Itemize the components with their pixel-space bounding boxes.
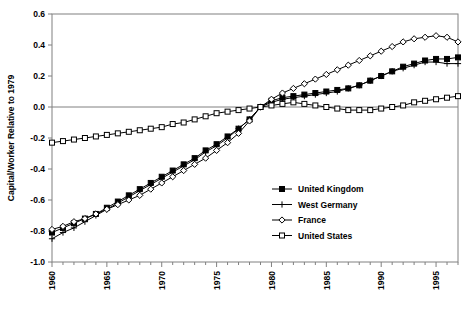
marker-open-square xyxy=(104,132,109,137)
marker-plus xyxy=(455,61,461,67)
marker-open-diamond xyxy=(356,57,362,63)
y-axis-tick-label: -0.8 xyxy=(30,226,45,236)
legend-item-west-germany[interactable]: West Germany xyxy=(272,200,358,210)
legend-item-france[interactable]: France xyxy=(272,215,326,225)
x-axis-tick-label: 1975 xyxy=(212,271,222,290)
x-axis-tick-label-group: 1960 xyxy=(47,271,57,290)
x-axis-tick-label-group: 1975 xyxy=(212,271,222,290)
legend-item-united-kingdom[interactable]: United Kingdom xyxy=(272,184,364,194)
marker-open-square xyxy=(324,105,329,110)
marker-open-square xyxy=(214,111,219,116)
legend: United KingdomWest GermanyFranceUnited S… xyxy=(272,184,364,241)
marker-open-square xyxy=(82,136,87,141)
marker-open-diamond xyxy=(433,33,439,39)
y-axis-title: Capital/Worker Relative to 1979 xyxy=(6,75,16,202)
marker-open-square xyxy=(258,105,263,110)
y-axis-tick-label: 0.4 xyxy=(33,40,45,50)
x-axis-tick-label: 1960 xyxy=(47,271,57,290)
marker-open-diamond xyxy=(345,62,351,68)
marker-open-diamond xyxy=(203,155,209,161)
x-axis-tick-label: 1970 xyxy=(157,271,167,290)
marker-open-diamond xyxy=(323,71,329,77)
marker-open-diamond xyxy=(422,34,428,40)
marker-open-square xyxy=(302,101,307,106)
marker-open-diamond xyxy=(290,85,296,91)
y-axis-tick-label: -0.2 xyxy=(30,133,45,143)
x-axis-tick-label: 1985 xyxy=(322,271,332,290)
x-axis-tick-label: 1965 xyxy=(102,271,112,290)
legend-label: United States xyxy=(298,231,353,241)
legend-label: United Kingdom xyxy=(298,184,364,194)
marker-open-square xyxy=(236,108,241,113)
marker-open-square xyxy=(280,101,285,106)
marker-open-square xyxy=(357,108,362,113)
x-axis-tick-label: 1995 xyxy=(431,271,441,290)
legend-item-united-states[interactable]: United States xyxy=(272,231,353,241)
marker-open-square xyxy=(247,106,252,111)
marker-open-square xyxy=(60,139,65,144)
marker-open-square xyxy=(170,122,175,127)
marker-open-square xyxy=(335,106,340,111)
marker-open-diamond xyxy=(159,180,165,186)
marker-open-diamond xyxy=(137,192,143,198)
x-axis-tick-label: 1980 xyxy=(267,271,277,290)
x-axis-tick-label-group: 1965 xyxy=(102,271,112,290)
marker-open-square xyxy=(159,125,164,130)
y-axis-tick-label: -1.0 xyxy=(30,257,45,267)
series-line xyxy=(52,62,458,239)
series-line xyxy=(52,36,458,230)
marker-filled-square xyxy=(456,55,461,60)
marker-open-square xyxy=(115,131,120,136)
marker-open-square xyxy=(71,137,76,142)
marker-open-diamond xyxy=(334,67,340,73)
marker-open-square xyxy=(346,108,351,113)
marker-open-square xyxy=(126,129,131,134)
series-united-states xyxy=(50,94,461,145)
x-axis-tick-label-group: 1980 xyxy=(267,271,277,290)
series-united-kingdom xyxy=(50,55,461,235)
marker-open-square xyxy=(203,114,208,119)
marker-open-square xyxy=(368,108,373,113)
y-axis-tick-label: -0.4 xyxy=(30,164,45,174)
marker-open-square xyxy=(390,105,395,110)
y-axis-tick-label: -0.6 xyxy=(30,195,45,205)
marker-open-square xyxy=(401,103,406,108)
line-chart: 0.60.40.20.0-0.2-0.4-0.6-0.8-1.019601965… xyxy=(0,0,472,314)
marker-open-square xyxy=(412,100,417,105)
marker-open-square xyxy=(225,109,230,114)
marker-open-diamond xyxy=(213,147,219,153)
marker-open-square xyxy=(379,106,384,111)
marker-open-square xyxy=(192,117,197,122)
series-west-germany xyxy=(49,59,461,242)
marker-open-diamond xyxy=(444,34,450,40)
y-axis-tick-label: 0.2 xyxy=(33,71,45,81)
marker-open-diamond xyxy=(378,48,384,54)
series-line xyxy=(52,96,458,142)
marker-open-square xyxy=(456,94,461,99)
marker-open-diamond xyxy=(279,217,285,223)
plot-area-frame xyxy=(52,14,458,262)
legend-label: France xyxy=(298,215,326,225)
marker-open-diamond xyxy=(148,186,154,192)
marker-open-square xyxy=(137,128,142,133)
y-axis-tick-label: 0.6 xyxy=(33,9,45,19)
marker-plus xyxy=(49,236,55,242)
marker-filled-square xyxy=(280,187,285,192)
marker-open-square xyxy=(93,134,98,139)
marker-open-square xyxy=(148,126,153,131)
marker-open-square xyxy=(181,120,186,125)
marker-open-square xyxy=(445,95,450,100)
marker-open-diamond xyxy=(411,36,417,42)
marker-open-diamond xyxy=(400,39,406,45)
x-axis-tick-label-group: 1995 xyxy=(431,271,441,290)
x-axis-tick-label-group: 1990 xyxy=(376,271,386,290)
marker-open-diamond xyxy=(192,161,198,167)
x-axis-tick-label: 1990 xyxy=(376,271,386,290)
x-axis-tick-label-group: 1970 xyxy=(157,271,167,290)
marker-open-diamond xyxy=(181,167,187,173)
marker-open-diamond xyxy=(170,174,176,180)
y-axis-title-group: Capital/Worker Relative to 1979 xyxy=(6,75,16,202)
series-france xyxy=(49,33,461,233)
y-axis-tick-label: 0.0 xyxy=(33,102,45,112)
marker-plus xyxy=(279,201,285,207)
